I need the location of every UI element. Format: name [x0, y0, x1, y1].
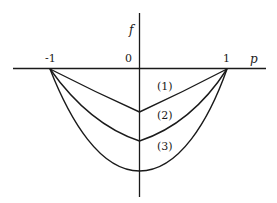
tick-label-pos1: 1	[223, 52, 230, 65]
origin-label: 0	[125, 52, 132, 65]
tick-label-neg1: -1	[45, 52, 56, 65]
diagram-canvas: f p 0 -1 1 (1) (2) (3)	[0, 0, 277, 203]
curve-2-label: (2)	[157, 109, 173, 122]
y-axis-label: f	[128, 23, 136, 37]
curve-3-label: (3)	[157, 140, 173, 153]
x-axis-label: p	[250, 52, 258, 66]
curve-2	[50, 69, 227, 141]
curve-1	[50, 69, 227, 112]
curve-1-label: (1)	[157, 80, 173, 93]
figure: f p 0 -1 1 (1) (2) (3)	[0, 0, 277, 203]
curve-3	[50, 69, 227, 171]
